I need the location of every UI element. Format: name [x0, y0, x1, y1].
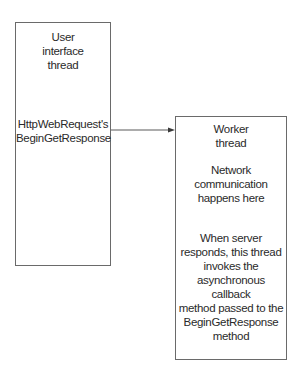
arrow-head-icon [168, 128, 175, 133]
arrow-connector [0, 0, 301, 374]
